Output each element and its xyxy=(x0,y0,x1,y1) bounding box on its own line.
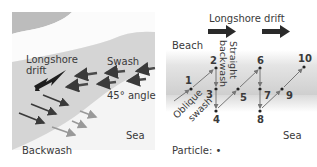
point-label: 8 xyxy=(257,114,264,125)
particle-dot xyxy=(258,66,261,69)
particle-dot xyxy=(189,87,192,90)
particle-dot xyxy=(258,109,261,112)
point-label: 6 xyxy=(257,55,264,66)
label-backwash: Backwash xyxy=(22,145,72,156)
point-label: 4 xyxy=(213,114,220,125)
particle-dot xyxy=(214,87,217,90)
particle-dot xyxy=(214,109,217,112)
label-particle: Particle: • xyxy=(172,145,221,156)
point-label: 1 xyxy=(185,75,192,86)
particle-dot xyxy=(280,87,283,90)
label-sea-right: Sea xyxy=(283,130,302,141)
left-panel: Longshore drift Swash 45° angle Sea Back… xyxy=(12,12,156,156)
point-label: 2 xyxy=(210,55,217,66)
label-45-angle: 45° angle xyxy=(107,90,156,101)
particle-dot xyxy=(214,66,217,69)
point-label: 3 xyxy=(206,89,213,100)
label-swash: Swash xyxy=(107,56,139,67)
label-backwash-vertical: backwash xyxy=(218,40,229,87)
drift-arrow-2 xyxy=(262,25,290,38)
right-title: Longshore drift xyxy=(209,13,285,24)
label-longshore: Longshore xyxy=(26,54,78,65)
point-label: 10 xyxy=(298,53,312,64)
label-sea-left: Sea xyxy=(126,130,145,141)
label-drift: drift xyxy=(26,65,47,76)
particle-dot xyxy=(302,65,305,68)
drift-arrow-1 xyxy=(208,25,236,38)
label-beach: Beach xyxy=(172,40,203,51)
point-label: 7 xyxy=(264,90,271,101)
particle-dot xyxy=(236,87,239,90)
longshore-drift-diagram: Longshore drift Swash 45° angle Sea Back… xyxy=(0,0,317,167)
particle-dot xyxy=(258,87,261,90)
point-label: 9 xyxy=(286,90,293,101)
point-label: 5 xyxy=(240,92,247,103)
right-panel: Longshore drift Beach Straight backwash … xyxy=(166,13,317,156)
